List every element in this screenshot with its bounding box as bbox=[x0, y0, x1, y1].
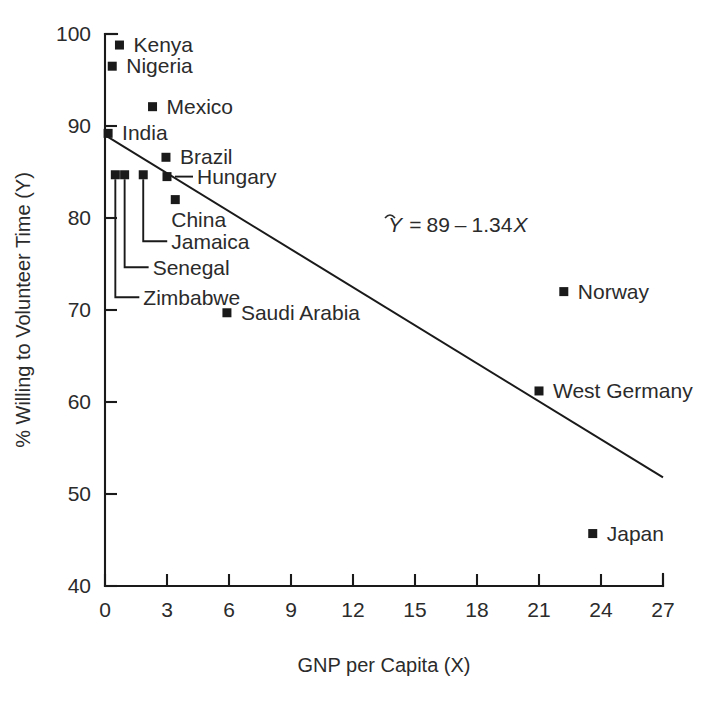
equation-text: Y =89–1.34X bbox=[388, 213, 528, 236]
data-point-india bbox=[104, 129, 113, 138]
x-tick-label-6: 6 bbox=[223, 598, 235, 621]
data-point-kenya bbox=[115, 41, 124, 50]
equation-yhat: Y bbox=[388, 213, 404, 236]
data-label-hungary: Hungary bbox=[197, 165, 277, 188]
x-ticks-group bbox=[105, 574, 663, 586]
data-point-zimbabwe bbox=[111, 170, 120, 179]
data-point-saudi-arabia bbox=[222, 308, 231, 317]
data-label-mexico: Mexico bbox=[167, 95, 234, 118]
y-tick-label-100: 100 bbox=[56, 22, 91, 45]
data-point-hungary bbox=[163, 172, 172, 181]
tick-labels-group: 4050607080901000369121518212427 bbox=[56, 22, 675, 621]
data-point-china bbox=[171, 195, 180, 204]
data-label-nigeria: Nigeria bbox=[126, 54, 193, 77]
data-point-brazil bbox=[161, 153, 170, 162]
x-tick-label-9: 9 bbox=[285, 598, 297, 621]
equation-hat bbox=[403, 218, 407, 235]
y-tick-label-60: 60 bbox=[68, 390, 91, 413]
data-point-jamaica bbox=[139, 170, 148, 179]
x-axis-title: GNP per Capita (X) bbox=[297, 654, 470, 676]
plot-canvas: KenyaNigeriaMexicoIndiaBrazilHungaryChin… bbox=[0, 0, 716, 702]
data-label-west-germany: West Germany bbox=[553, 379, 693, 402]
data-point-senegal bbox=[120, 170, 129, 179]
x-tick-label-27: 27 bbox=[651, 598, 674, 621]
y-tick-label-90: 90 bbox=[68, 114, 91, 137]
leader-line-zimbabwe bbox=[115, 179, 139, 297]
data-label-saudi-arabia: Saudi Arabia bbox=[241, 301, 360, 324]
x-tick-label-12: 12 bbox=[341, 598, 364, 621]
data-point-norway bbox=[559, 287, 568, 296]
data-label-china: China bbox=[171, 208, 226, 231]
equation-intercept: 89 bbox=[426, 213, 449, 236]
y-tick-label-40: 40 bbox=[68, 574, 91, 597]
data-label-senegal: Senegal bbox=[153, 256, 230, 279]
x-tick-label-15: 15 bbox=[403, 598, 426, 621]
y-tick-label-70: 70 bbox=[68, 298, 91, 321]
equation-xvar: X bbox=[512, 213, 528, 236]
x-tick-label-21: 21 bbox=[527, 598, 550, 621]
data-point-west-germany bbox=[535, 386, 544, 395]
data-label-jamaica: Jamaica bbox=[171, 230, 250, 253]
scatter-plot-figure: KenyaNigeriaMexicoIndiaBrazilHungaryChin… bbox=[0, 0, 716, 702]
leader-line-jamaica bbox=[143, 179, 167, 241]
data-label-india: India bbox=[122, 121, 168, 144]
data-point-nigeria bbox=[108, 62, 117, 71]
equation-minus: – bbox=[455, 213, 467, 236]
regression-equation-annotation: Y =89–1.34X bbox=[385, 213, 528, 236]
y-tick-label-80: 80 bbox=[68, 206, 91, 229]
data-label-zimbabwe: Zimbabwe bbox=[143, 286, 240, 309]
leader-line-senegal bbox=[125, 179, 149, 267]
x-tick-label-0: 0 bbox=[99, 598, 111, 621]
data-label-norway: Norway bbox=[578, 280, 650, 303]
equation-slope: 1.34 bbox=[472, 213, 513, 236]
x-tick-label-24: 24 bbox=[589, 598, 613, 621]
data-label-japan: Japan bbox=[607, 522, 664, 545]
x-tick-label-3: 3 bbox=[161, 598, 173, 621]
equation-equals: = bbox=[409, 213, 421, 236]
y-axis-title: % Willing to Volunteer Time (Y) bbox=[12, 172, 34, 448]
data-point-mexico bbox=[148, 102, 157, 111]
x-tick-label-18: 18 bbox=[465, 598, 488, 621]
y-tick-label-50: 50 bbox=[68, 482, 91, 505]
data-labels-group: KenyaNigeriaMexicoIndiaBrazilHungaryChin… bbox=[122, 33, 693, 545]
data-label-kenya: Kenya bbox=[133, 33, 193, 56]
y-ticks-group bbox=[105, 34, 117, 586]
data-point-japan bbox=[588, 529, 597, 538]
